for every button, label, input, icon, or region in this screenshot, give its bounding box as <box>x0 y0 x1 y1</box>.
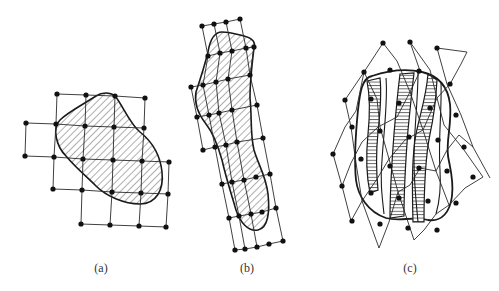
figure-canvas: (a) <box>0 0 499 291</box>
panel-b: (b) <box>188 16 285 275</box>
panel-label-b: (b) <box>240 261 254 275</box>
panel-label-c: (c) <box>403 261 416 275</box>
hatched-region-a <box>56 93 163 204</box>
panel-label-a: (a) <box>94 261 107 275</box>
hatched-region-b <box>195 32 268 230</box>
panel-c: (c) <box>330 39 490 275</box>
panel-a: (a) <box>22 91 171 275</box>
